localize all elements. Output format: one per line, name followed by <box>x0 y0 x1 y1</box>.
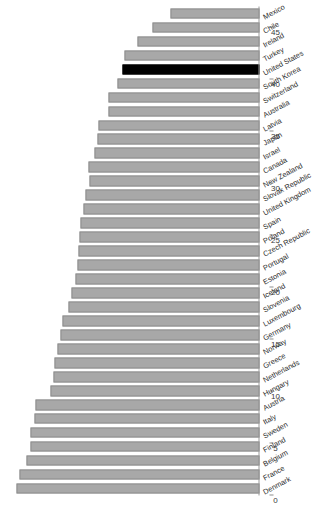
bar-highlighted[interactable] <box>122 64 259 75</box>
bar[interactable] <box>57 343 259 354</box>
bar[interactable] <box>98 120 259 131</box>
bar-slot <box>10 439 259 453</box>
bar[interactable] <box>124 50 259 61</box>
bar[interactable] <box>62 315 259 326</box>
bar[interactable] <box>80 217 259 228</box>
bar-slot <box>10 216 259 230</box>
bar-slot <box>10 299 259 313</box>
bar[interactable] <box>60 329 259 340</box>
bar[interactable] <box>152 22 259 33</box>
bar-slot <box>10 425 259 439</box>
bar[interactable] <box>78 245 259 256</box>
plot-area <box>10 6 259 495</box>
bar[interactable] <box>108 92 259 103</box>
bar-slot <box>10 272 259 286</box>
bar[interactable] <box>85 189 259 200</box>
bar-slot <box>10 327 259 341</box>
bar-slot <box>10 397 259 411</box>
bar[interactable] <box>83 203 259 214</box>
bar-slot <box>10 285 259 299</box>
bar[interactable] <box>30 427 259 438</box>
bar[interactable] <box>26 455 259 466</box>
bar[interactable] <box>35 399 259 410</box>
bar[interactable] <box>16 483 259 494</box>
bar-slot <box>10 355 259 369</box>
category-label: Mexico <box>261 2 286 21</box>
bar-slot <box>10 453 259 467</box>
bar-slot <box>10 481 259 495</box>
bar-slot <box>10 90 259 104</box>
bar-slot <box>10 230 259 244</box>
bar[interactable] <box>34 413 259 424</box>
bar-slot <box>10 146 259 160</box>
bar[interactable] <box>137 36 259 47</box>
bar-slot <box>10 258 259 272</box>
bar[interactable] <box>77 259 259 270</box>
bar-slot <box>10 6 259 20</box>
bar[interactable] <box>54 357 259 368</box>
bar-slot <box>10 244 259 258</box>
bar[interactable] <box>75 273 259 284</box>
bar-slot <box>10 411 259 425</box>
bar[interactable] <box>117 78 260 89</box>
bar[interactable] <box>19 469 259 480</box>
bar-slot <box>10 76 259 90</box>
bar[interactable] <box>53 371 259 382</box>
bar-slot <box>10 132 259 146</box>
bar-slot <box>10 20 259 34</box>
bar-slot <box>10 160 259 174</box>
bar-slot <box>10 369 259 383</box>
bar[interactable] <box>30 441 259 452</box>
bar-slot <box>10 174 259 188</box>
category-axis-labels: DenmarkFranceBelgiumFinlandSwedenItalyAu… <box>259 6 329 495</box>
bar-series <box>10 6 259 495</box>
bar-slot <box>10 48 259 62</box>
bar-slot <box>10 62 259 76</box>
bar-slot <box>10 104 259 118</box>
bar-slot <box>10 202 259 216</box>
bar-chart-figure: 051015202530354045 DenmarkFranceBelgiumF… <box>0 0 329 509</box>
bar[interactable] <box>71 287 259 298</box>
bar[interactable] <box>94 147 259 158</box>
bar-slot <box>10 383 259 397</box>
bar[interactable] <box>97 134 259 145</box>
bar-slot <box>10 341 259 355</box>
axis-tick-label: 0 <box>273 495 277 504</box>
bar[interactable] <box>89 175 259 186</box>
bar[interactable] <box>170 8 259 19</box>
chart-rotation-wrapper: 051015202530354045 DenmarkFranceBelgiumF… <box>0 0 329 509</box>
bar[interactable] <box>108 106 259 117</box>
bar-slot <box>10 467 259 481</box>
bar-slot <box>10 313 259 327</box>
bar[interactable] <box>50 385 259 396</box>
bar[interactable] <box>88 161 259 172</box>
bar-slot <box>10 118 259 132</box>
bar-slot <box>10 188 259 202</box>
bar-slot <box>10 34 259 48</box>
bar[interactable] <box>68 301 259 312</box>
bar[interactable] <box>79 231 259 242</box>
